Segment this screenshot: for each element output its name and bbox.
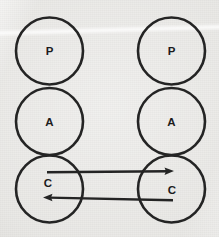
arrow-left-to-right[interactable]	[47, 167, 174, 175]
node-left-abstraction[interactable]: A	[16, 88, 83, 155]
arrow-right-to-left[interactable]	[43, 194, 173, 201]
arrow-right-to-left-shaft[interactable]	[49, 198, 173, 201]
label-left-abstraction: A	[45, 116, 53, 128]
pac-diagram: P A C P A C	[0, 0, 219, 237]
control-connections	[43, 167, 174, 201]
arrow-left-to-right-shaft[interactable]	[47, 171, 168, 172]
label-left-control: C	[44, 177, 52, 189]
node-right-presentation[interactable]: P	[138, 18, 205, 85]
node-left-control[interactable]: C	[16, 156, 83, 223]
right-agent-column: P A C	[138, 18, 205, 223]
label-right-presentation: P	[168, 45, 176, 57]
node-left-presentation[interactable]: P	[16, 18, 83, 85]
node-right-control[interactable]: C	[138, 156, 205, 223]
label-right-abstraction: A	[167, 116, 175, 128]
label-left-presentation: P	[46, 45, 54, 57]
left-agent-column: P A C	[16, 18, 83, 223]
label-right-control: C	[168, 184, 176, 196]
diagram-canvas: P A C P A C	[0, 0, 219, 237]
node-right-abstraction[interactable]: A	[138, 88, 205, 155]
